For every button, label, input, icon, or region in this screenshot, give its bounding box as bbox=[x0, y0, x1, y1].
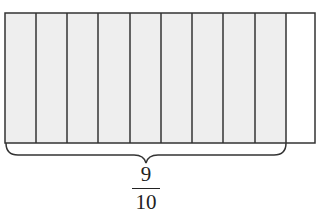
fraction-numerator: 9 bbox=[126, 164, 166, 186]
fraction-bar-line bbox=[132, 188, 160, 189]
fraction-label: 9 10 bbox=[126, 164, 166, 213]
fraction-denominator: 10 bbox=[126, 192, 166, 213]
unshaded-region bbox=[286, 13, 315, 143]
shaded-region bbox=[5, 13, 286, 143]
curly-brace bbox=[6, 143, 286, 163]
